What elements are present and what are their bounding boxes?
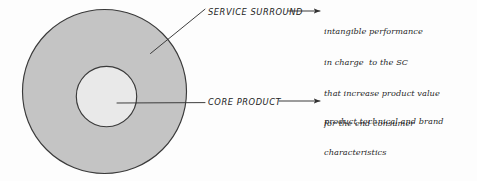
core-product-label: CORE PRODUCT xyxy=(208,97,281,107)
description-line: intangible performance xyxy=(324,26,440,36)
diagram-canvas: SERVICE SURROUND CORE PRODUCT intangible… xyxy=(0,0,477,181)
inner-circle-core-product xyxy=(76,66,136,126)
service-surround-label: SERVICE SURROUND xyxy=(208,7,303,17)
description-line: characteristics xyxy=(324,147,444,157)
description-line: product technical and brand xyxy=(324,116,444,126)
description-line: in charge to the SC xyxy=(324,57,440,67)
core-product-description: product technical and brand characterist… xyxy=(324,96,444,178)
